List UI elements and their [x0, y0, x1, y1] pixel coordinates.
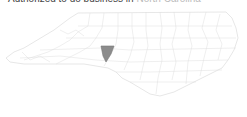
nc-county-map	[0, 0, 247, 117]
state-outline	[6, 12, 238, 96]
